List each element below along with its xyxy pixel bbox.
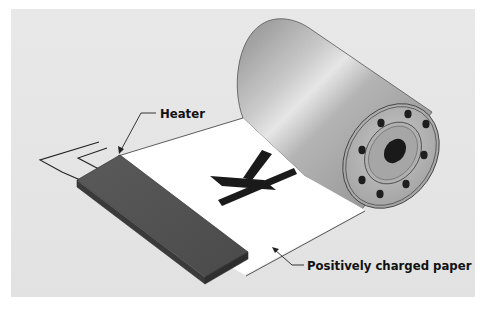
bolt-icon [422,120,429,128]
bolt-icon [376,190,383,198]
bolt-icon [358,146,365,154]
bolt-icon [402,180,409,188]
thermal-printer-diagram: Heater Positively charged paper [0,0,488,309]
bolt-icon [358,176,365,184]
bolt-icon [377,119,384,127]
paper-label: Positively charged paper [307,258,472,273]
bolt-icon [420,151,427,159]
bolt-icon [404,110,411,118]
heater-label: Heater [160,106,205,121]
